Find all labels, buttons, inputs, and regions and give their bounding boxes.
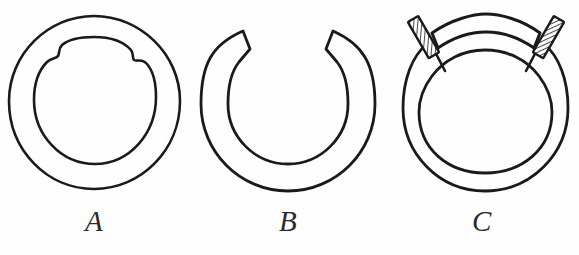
ring-a-inner-contour	[34, 37, 156, 164]
figure-b-caption: B	[258, 205, 318, 238]
ring-c-bridging-plate	[432, 14, 540, 48]
ring-c-outer-contour	[403, 44, 568, 191]
ring-b-open-body	[201, 31, 375, 191]
figure-c-group	[403, 14, 568, 191]
figure-a-group	[9, 16, 180, 189]
ring-c-inner-contour	[419, 50, 552, 173]
figure-c-caption: C	[452, 205, 512, 238]
figure-board: A B C	[0, 0, 579, 255]
figure-b-group	[201, 31, 375, 191]
figure-a-caption: A	[64, 205, 124, 238]
